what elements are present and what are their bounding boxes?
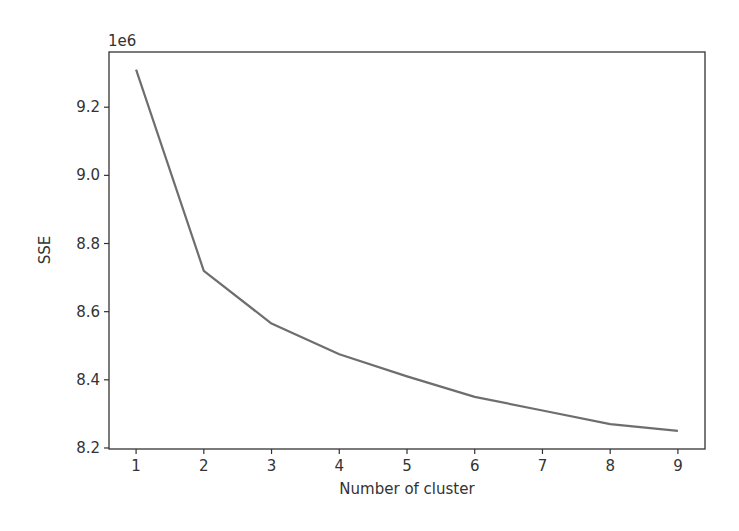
x-tick-label: 7 [538,457,548,475]
x-axis-label: Number of cluster [339,480,475,498]
y-tick-label: 8.2 [76,439,100,457]
y-tick-label: 8.4 [76,371,100,389]
y-axis: 8.28.48.68.89.09.2 [76,98,109,457]
sse-elbow-chart: 8.28.48.68.89.09.2 123456789 1e6 Number … [0,0,739,531]
plot-frame [109,52,705,449]
x-axis: 123456789 [131,449,682,475]
x-tick-label: 4 [334,457,344,475]
y-tick-label: 9.0 [76,166,100,184]
y-offset-label: 1e6 [108,32,136,50]
sse-line [136,70,678,431]
x-tick-label: 2 [199,457,209,475]
y-axis-label: SSE [36,236,54,265]
y-tick-label: 9.2 [76,98,100,116]
x-tick-label: 5 [402,457,412,475]
plot-area [136,70,678,431]
x-tick-label: 3 [267,457,277,475]
y-tick-label: 8.6 [76,303,100,321]
x-tick-label: 1 [131,457,141,475]
x-tick-label: 9 [673,457,683,475]
y-tick-label: 8.8 [76,235,100,253]
x-tick-label: 8 [605,457,615,475]
x-tick-label: 6 [470,457,480,475]
